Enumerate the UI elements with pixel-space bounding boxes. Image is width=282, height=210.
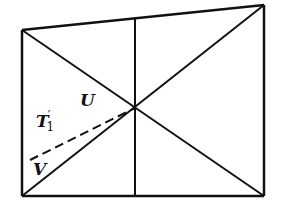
- top-edge: [22, 5, 264, 30]
- label-V: V: [33, 159, 48, 179]
- geometry-svg: U T′1 V: [0, 0, 282, 210]
- diagonal-topleft-bottomright: [22, 30, 264, 196]
- diagram-figure: U T′1 V: [0, 0, 282, 210]
- label-T-subscript: 1: [46, 120, 54, 134]
- label-U: U: [80, 90, 96, 110]
- label-T1-prime: T′1: [36, 109, 54, 134]
- diagonal-topright-bottomleft: [22, 5, 264, 196]
